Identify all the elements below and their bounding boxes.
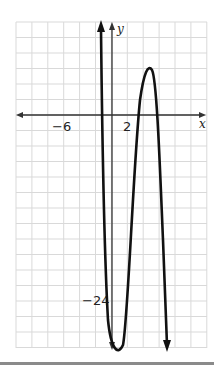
y-axis-label: y [116, 22, 124, 36]
y-axis-up-arrow-icon [109, 22, 115, 30]
x-tick-label-neg6: −6 [52, 119, 71, 134]
curve-bottom-arrow-icon [163, 340, 171, 352]
bottom-divider [0, 362, 214, 365]
x-axis-left-arrow-icon [16, 112, 23, 118]
x-tick-label-2: 2 [123, 119, 131, 134]
x-axis-label: x [199, 117, 206, 131]
function-curve [97, 20, 171, 352]
y-tick-label-neg24: −24 [82, 293, 109, 308]
graph-canvas: y x −6 2 −24 [0, 0, 214, 368]
